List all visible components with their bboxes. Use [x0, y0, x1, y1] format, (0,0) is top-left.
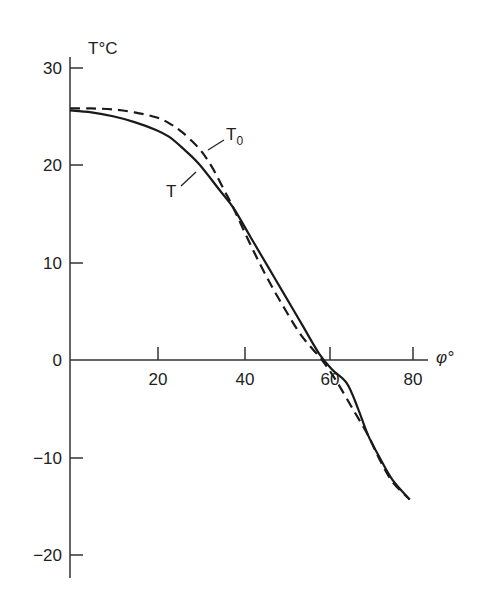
y-tick-label: −10	[33, 449, 62, 468]
y-ticks	[70, 68, 83, 555]
y-axis-title: T°C	[88, 39, 117, 58]
x-axis-title: φ°	[436, 348, 454, 367]
curve-t-solid	[70, 110, 410, 499]
y-tick-label: 0	[53, 351, 62, 370]
chart: 30 20 10 0 −10 −20 20 40 60 80 T°C φ° T0…	[0, 0, 485, 600]
t-leader-line	[181, 172, 196, 186]
y-tick-label: 10	[43, 254, 62, 273]
t-label: T	[166, 182, 176, 201]
x-tick-label: 40	[236, 370, 255, 389]
x-tick-label: 80	[404, 370, 423, 389]
t0-leader-line	[208, 140, 224, 150]
x-tick-label: 20	[149, 370, 168, 389]
y-tick-label: −20	[33, 546, 62, 565]
curve-t0-dashed	[70, 108, 410, 499]
t0-label: T0	[226, 125, 243, 148]
y-tick-label: 20	[43, 156, 62, 175]
y-tick-label: 30	[43, 59, 62, 78]
x-ticks	[158, 347, 413, 360]
